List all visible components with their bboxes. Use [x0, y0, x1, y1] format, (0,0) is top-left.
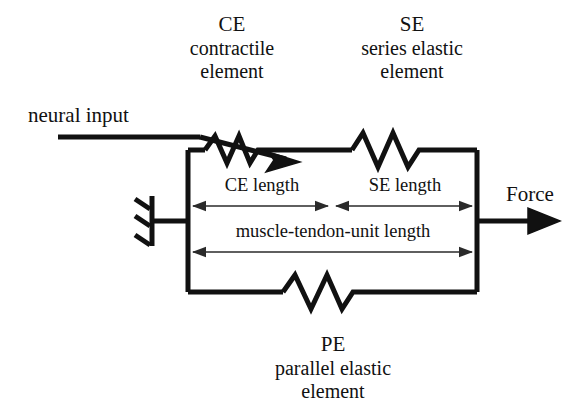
se-length-label: SE length: [369, 175, 441, 197]
se-line3: element: [361, 60, 463, 84]
se-spring-icon: [352, 133, 477, 167]
ce-length-label: CE length: [225, 175, 300, 197]
ground-hatch-2: [135, 216, 150, 226]
ce-label-group: CE contractile element: [190, 12, 274, 84]
ce-line3: element: [190, 60, 274, 84]
neural-input-arrowhead: [266, 152, 300, 172]
force-arrowhead: [528, 208, 560, 234]
pe-label-group: PE parallel elastic element: [275, 332, 391, 404]
se-line2: series elastic: [361, 37, 463, 61]
neural-input-label: neural input: [28, 103, 129, 128]
ce-line2: contractile: [190, 37, 274, 61]
pe-abbrev: PE: [275, 332, 391, 357]
pe-line2: parallel elastic: [275, 357, 391, 381]
pe-line3: element: [275, 380, 391, 404]
ground-hatch-1: [135, 199, 150, 209]
mtu-length-label: muscle-tendon-unit length: [236, 221, 431, 243]
ground-hatch-3: [135, 235, 150, 245]
pe-spring-icon: [283, 275, 477, 309]
ce-abbrev: CE: [190, 12, 274, 37]
se-abbrev: SE: [361, 12, 463, 37]
force-label: Force: [506, 182, 554, 207]
se-label-group: SE series elastic element: [361, 12, 463, 84]
muscle-model-diagram: CE contractile element SE series elastic…: [0, 0, 588, 419]
